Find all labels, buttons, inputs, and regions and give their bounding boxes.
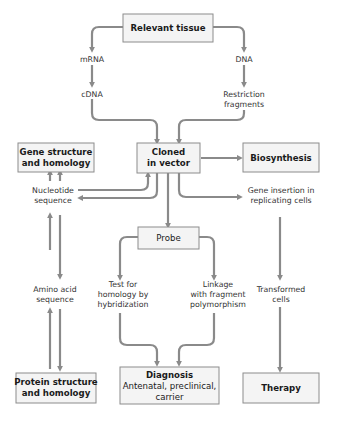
label-transformed-1: cells	[272, 295, 289, 304]
box-cloned-line-0: Cloned	[152, 147, 185, 157]
label-cdna: cDNA	[81, 90, 103, 99]
label-restriction-0: Restriction	[223, 90, 265, 99]
box-gene-structure-line-0: Gene structure	[20, 147, 93, 157]
arrow-nucleotide-to-cloned	[78, 174, 148, 190]
box-biosynthesis-line-0: Biosynthesis	[250, 153, 311, 163]
label-linkage-0: Linkage	[203, 280, 234, 289]
arrow-test-to-diagnosis	[120, 313, 157, 364]
arrow-linkage-to-diagnosis	[179, 313, 214, 364]
box-gene-structure: Gene structure and homology	[18, 143, 94, 172]
label-amino-1: sequence	[36, 295, 74, 304]
box-protein-line-0: Protein structure	[14, 377, 98, 387]
label-test-0: Test for	[108, 280, 138, 289]
arrow-tissue-to-mrna	[92, 27, 123, 50]
box-diagnosis-line-2: carrier	[155, 392, 184, 402]
label-mrna: mRNA	[80, 55, 105, 64]
arrow-probe-to-test	[120, 237, 138, 278]
box-cloned-line-1: in vector	[147, 158, 191, 168]
arrows	[50, 27, 280, 370]
flow-diagram: Relevant tissue Cloned in vector Gene st…	[0, 0, 338, 421]
label-amino-0: Amino acid	[33, 285, 77, 294]
box-diagnosis-line-1: Antenatal, preclinical,	[123, 381, 217, 391]
box-diagnosis: Diagnosis Antenatal, preclinical, carrie…	[120, 367, 219, 404]
box-relevant-tissue: Relevant tissue	[123, 14, 213, 42]
arrow-cdna-to-cloned	[92, 99, 157, 142]
box-cloned-in-vector: Cloned in vector	[137, 143, 200, 173]
box-therapy-line-0: Therapy	[261, 383, 301, 393]
label-linkage-1: with fragment	[190, 290, 245, 299]
box-biosynthesis: Biosynthesis	[243, 143, 319, 172]
label-nucleotide-1: sequence	[34, 196, 72, 205]
arrow-cloned-to-nucleotide	[80, 173, 157, 198]
arrow-cloned-to-gene-insertion	[179, 173, 240, 197]
label-gene-insertion-0: Gene insertion in	[248, 186, 315, 195]
box-gene-structure-line-1: and homology	[22, 158, 91, 168]
label-linkage-2: polymorphism	[190, 300, 246, 309]
box-diagnosis-line-0: Diagnosis	[146, 370, 193, 380]
arrow-probe-to-linkage	[198, 237, 214, 278]
labels: mRNA DNA cDNA Restriction fragments Nucl…	[32, 55, 314, 309]
box-therapy: Therapy	[243, 373, 319, 403]
arrow-tissue-to-dna	[213, 27, 244, 50]
label-transformed-0: Transformed	[256, 285, 306, 294]
box-probe: Probe	[138, 227, 199, 249]
box-probe-line-0: Probe	[156, 233, 180, 243]
arrow-restriction-to-cloned	[179, 110, 244, 142]
label-nucleotide-0: Nucleotide	[32, 186, 74, 195]
box-relevant-tissue-line-0: Relevant tissue	[130, 23, 205, 33]
label-gene-insertion-1: replicating cells	[250, 196, 311, 205]
box-protein-structure: Protein structure and homology	[14, 373, 98, 403]
box-protein-line-1: and homology	[22, 388, 91, 398]
label-test-1: homology by	[98, 290, 149, 299]
label-restriction-1: fragments	[224, 100, 264, 109]
label-dna: DNA	[235, 55, 253, 64]
label-test-2: hybridization	[98, 300, 149, 309]
